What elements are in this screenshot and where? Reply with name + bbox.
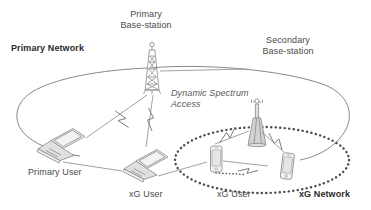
primary-user-label: Primary User — [28, 167, 82, 178]
secondary-base-station-antenna — [248, 99, 266, 147]
primary-base-station-label: Primary Base-station — [104, 9, 188, 31]
secondary-base-station-label: Secondary Base-station — [243, 35, 333, 57]
xg-user-phone-left — [211, 146, 223, 172]
link-primary-bs-to-xg-user-laptop — [146, 95, 154, 147]
xg-network-label: xG Network — [299, 189, 350, 200]
network-diagram: .stroke-line { fill: none; stroke: #7a7a… — [0, 0, 371, 210]
primary-network-label: Primary Network — [11, 43, 84, 54]
xg-user-laptop — [123, 150, 168, 183]
xg-user-left-label: xG User — [129, 189, 163, 200]
link-secondary-bs-to-primary-network — [160, 69, 247, 71]
primary-user-laptop — [37, 129, 85, 164]
xg-user-phone-right — [280, 152, 295, 179]
dynamic-spectrum-access-label: Dynamic Spectrum Access — [171, 88, 249, 110]
xg-user-right-label: xG User — [217, 189, 251, 200]
link-phone-left-to-phone-right — [216, 161, 268, 175]
link-primary-bs-to-primary-user — [86, 95, 147, 138]
